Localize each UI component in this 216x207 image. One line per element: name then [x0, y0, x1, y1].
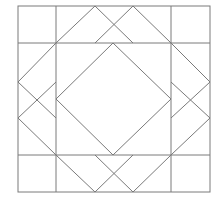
diagonal-segment — [56, 43, 113, 99]
diagonal-segment — [133, 6, 171, 43]
diagonal-segment — [56, 155, 95, 192]
outer-square — [18, 6, 210, 192]
quilt-pattern-diagram — [0, 0, 216, 207]
diagonal-segment — [18, 43, 56, 82]
diagonal-segment — [56, 6, 95, 43]
diagonal-segment — [113, 43, 171, 99]
diagonal-segment — [171, 118, 210, 155]
diagonal-segment — [113, 99, 171, 155]
diagonal-segment — [133, 155, 171, 192]
diagonal-segment — [171, 43, 210, 82]
diagonal-segment — [18, 118, 56, 155]
diagonal-segment — [56, 99, 113, 155]
